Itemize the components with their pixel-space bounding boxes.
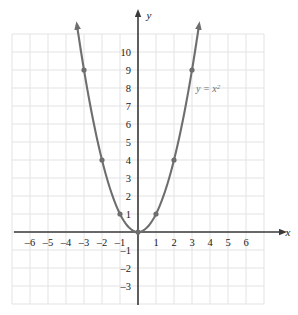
x-axis-label: x	[285, 226, 291, 238]
data-point-marker	[99, 157, 104, 162]
y-tick-label: –1	[120, 245, 132, 256]
y-tick-label: 2	[126, 191, 131, 202]
y-tick-label: 9	[126, 65, 131, 76]
y-tick-label: 10	[121, 47, 132, 58]
x-tick-label: –2	[96, 237, 108, 248]
y-tick-label: 7	[126, 101, 131, 112]
x-tick-label: –6	[24, 237, 36, 248]
curve-right-arrow	[195, 29, 198, 50]
coordinate-plane-svg: –6–5–4–3–2–112345610987654321–1–2–3 x y …	[0, 0, 298, 315]
data-point-marker	[81, 67, 86, 72]
x-tick-label: 4	[207, 237, 213, 248]
equation-label: y = x2	[195, 83, 221, 95]
x-tick-label: 1	[153, 237, 158, 248]
y-tick-label: 3	[126, 173, 131, 184]
curve-left-arrow	[78, 29, 81, 50]
y-tick-label: 5	[126, 137, 131, 148]
x-tick-label: 5	[225, 237, 230, 248]
data-point-marker	[135, 229, 140, 234]
y-tick-label: 1	[126, 209, 131, 220]
y-axis-label: y	[146, 9, 152, 21]
x-tick-label: 2	[171, 237, 176, 248]
x-tick-label: –4	[60, 237, 72, 248]
y-tick-label: 6	[126, 119, 131, 130]
data-point-marker	[171, 157, 176, 162]
x-tick-label: 6	[243, 237, 248, 248]
y-tick-label: –3	[120, 281, 132, 292]
data-point-marker	[189, 67, 194, 72]
x-tick-label: 3	[189, 237, 194, 248]
y-tick-label: –2	[120, 263, 132, 274]
y-tick-label: 4	[126, 155, 132, 166]
parabola-graph: –6–5–4–3–2–112345610987654321–1–2–3 x y …	[0, 0, 298, 315]
data-point-marker	[117, 211, 122, 216]
x-tick-label: –3	[78, 237, 90, 248]
x-tick-label: –5	[42, 237, 54, 248]
data-point-marker	[153, 211, 158, 216]
y-tick-label: 8	[126, 83, 131, 94]
